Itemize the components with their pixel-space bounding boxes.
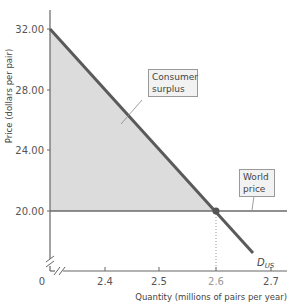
x-tick-label-2-7: 2.7: [263, 276, 279, 287]
world-price-label-line2: price: [243, 183, 271, 195]
x-tick-label-2-5: 2.5: [151, 276, 167, 287]
world-price-leader: [252, 196, 254, 210]
y-axis-title: Price (dollars per pair): [4, 49, 14, 144]
y-tick-label-24: 24.00: [15, 145, 44, 156]
demand-curve-label: DUS: [257, 257, 275, 270]
x-tick-label-2-4: 2.4: [97, 276, 113, 287]
x-tick-label-2-6: 2.6: [208, 276, 224, 287]
consumer-surplus-label: Consumer surplus: [148, 69, 198, 97]
equilibrium-point: [213, 208, 220, 215]
world-price-label-line1: World: [243, 171, 271, 183]
y-tick-label-20: 20.00: [15, 206, 44, 217]
y-tick-label-28: 28.00: [15, 85, 44, 96]
consumer-surplus-label-line2: surplus: [152, 83, 194, 95]
origin-label: 0: [39, 276, 45, 287]
x-axis-title: Quantity (millions of pairs per year): [135, 292, 287, 302]
y-tick-label-32: 32.00: [15, 24, 44, 35]
chart-canvas: 32.00 28.00 24.00 20.00 0 2.4 2.5 2.6 2.…: [0, 0, 290, 308]
world-price-label: World price: [239, 169, 275, 197]
consumer-surplus-label-line1: Consumer: [152, 71, 194, 83]
